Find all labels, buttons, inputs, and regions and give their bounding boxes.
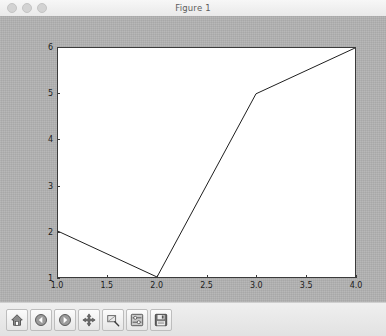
subplots-config-icon xyxy=(130,313,144,327)
x-tick-mark xyxy=(256,275,257,278)
x-tick-label: 3.0 xyxy=(250,281,263,290)
zoom-button[interactable] xyxy=(102,309,124,331)
x-tick-label: 1.5 xyxy=(100,281,113,290)
plot-axes[interactable] xyxy=(57,47,356,278)
window-titlebar: Figure 1 xyxy=(0,0,386,17)
save-floppy-icon xyxy=(154,313,168,327)
maximize-button[interactable] xyxy=(37,3,47,13)
home-button[interactable] xyxy=(6,309,28,331)
home-icon xyxy=(10,313,24,327)
back-button[interactable] xyxy=(30,309,52,331)
pan-move-icon xyxy=(82,313,96,327)
x-tick-label: 2.5 xyxy=(200,281,213,290)
zoom-rect-icon xyxy=(106,313,120,327)
line-plot xyxy=(58,48,355,277)
y-tick-label: 5 xyxy=(48,89,53,98)
y-tick-mark xyxy=(57,93,60,94)
forward-arrow-icon xyxy=(58,313,72,327)
save-button[interactable] xyxy=(150,309,172,331)
toolbar-separator xyxy=(174,309,177,331)
back-arrow-icon xyxy=(34,313,48,327)
x-tick-mark xyxy=(157,275,158,278)
x-tick-mark xyxy=(107,275,108,278)
x-tick-mark xyxy=(57,275,58,278)
y-tick-label: 6 xyxy=(48,43,53,52)
x-tick-label: 4.0 xyxy=(350,281,363,290)
close-button[interactable] xyxy=(7,3,17,13)
forward-button[interactable] xyxy=(54,309,76,331)
pan-button[interactable] xyxy=(78,309,100,331)
y-tick-mark xyxy=(57,278,60,279)
x-tick-label: 3.5 xyxy=(300,281,313,290)
data-series-line xyxy=(58,48,355,277)
y-tick-mark xyxy=(57,232,60,233)
figure-canvas: 1234561.01.52.02.53.03.54.0 xyxy=(0,16,386,302)
y-tick-mark xyxy=(57,186,60,187)
y-tick-mark xyxy=(57,139,60,140)
navigation-toolbar xyxy=(0,302,386,336)
x-tick-label: 1.0 xyxy=(51,281,64,290)
x-tick-mark xyxy=(207,275,208,278)
y-tick-mark xyxy=(57,47,60,48)
x-tick-label: 2.0 xyxy=(150,281,163,290)
minimize-button[interactable] xyxy=(22,3,32,13)
x-tick-mark xyxy=(306,275,307,278)
subplots-button[interactable] xyxy=(126,309,148,331)
y-tick-label: 3 xyxy=(48,181,53,190)
x-tick-mark xyxy=(356,275,357,278)
y-tick-label: 2 xyxy=(48,227,53,236)
y-tick-label: 4 xyxy=(48,135,53,144)
figure-window: Figure 1 1234561.01.52.02.53.03.54.0 xyxy=(0,0,386,336)
window-controls xyxy=(7,0,47,16)
window-title: Figure 1 xyxy=(0,3,386,13)
